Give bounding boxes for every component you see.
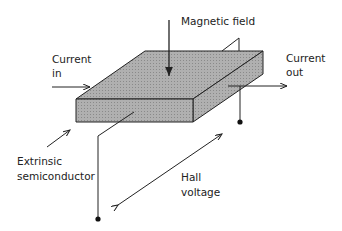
current-in-label-1: Current	[52, 53, 91, 66]
magnetic-field-label: Magnetic field	[181, 15, 255, 28]
left-wire	[98, 112, 134, 219]
extrinsic-label-2: semiconductor	[17, 170, 95, 183]
current-in-label-2: in	[52, 67, 62, 80]
current-out-label-2: out	[286, 66, 303, 79]
left-terminal	[95, 216, 100, 221]
hall-voltage-label-2: voltage	[181, 186, 220, 199]
extrinsic-label-1: Extrinsic	[17, 155, 62, 168]
right-terminal	[237, 119, 242, 124]
back-wire	[222, 38, 239, 51]
diagram-graphic	[0, 0, 342, 231]
hall-voltage-label-1: Hall	[181, 171, 201, 184]
extrinsic-pointer-arrow	[47, 130, 70, 147]
current-out-label-1: Current	[286, 52, 325, 65]
hall-effect-diagram: Magnetic field Current in Current out Ex…	[0, 0, 342, 231]
